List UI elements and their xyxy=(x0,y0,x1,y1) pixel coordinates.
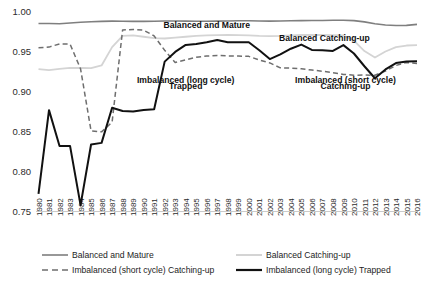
x-axis-tick-label: 1994 xyxy=(182,198,191,216)
y-axis-tick-label: 0.80 xyxy=(13,166,32,177)
x-axis-tick-label: 1995 xyxy=(192,198,201,216)
x-axis-tick-label: 1999 xyxy=(234,198,243,216)
x-axis-tick-label: 2014 xyxy=(392,198,401,216)
x-axis-tick-label: 1982 xyxy=(56,198,65,216)
series-line-3 xyxy=(39,40,418,205)
x-axis-tick-label: 1988 xyxy=(119,198,128,216)
x-axis-tick-label: 1992 xyxy=(161,198,170,216)
legend-label: Imbalanced (short cycle) Catching-up xyxy=(72,265,215,275)
chart-annotation: Trapped xyxy=(169,81,202,91)
series-group xyxy=(39,20,418,205)
x-axis-tick-label: 1998 xyxy=(224,198,233,216)
x-axis-tick-label: 1981 xyxy=(45,198,54,216)
x-axis-tick-label: 2004 xyxy=(287,198,296,216)
x-axis-tick-label: 1990 xyxy=(140,198,149,216)
x-axis-tick-label: 2013 xyxy=(382,198,391,216)
line-chart: 1.000.950.900.850.800.75 198019811982198… xyxy=(0,0,423,286)
x-axis-tick-label: 2002 xyxy=(266,198,275,216)
x-axis-tick-labels: 1980198119821983198419851986198719881989… xyxy=(35,198,423,216)
x-axis-tick-label: 2000 xyxy=(245,198,254,216)
y-axis-tick-label: 1.00 xyxy=(13,6,32,17)
x-axis-tick-label: 1993 xyxy=(171,198,180,216)
chart-legend: Balanced and MatureBalanced Catching-upI… xyxy=(42,250,391,275)
y-axis-tick-label: 0.90 xyxy=(13,86,32,97)
y-axis-tick-label: 0.95 xyxy=(13,46,32,57)
x-axis-tick-label: 1989 xyxy=(129,198,138,216)
chart-svg: 1.000.950.900.850.800.75 198019811982198… xyxy=(0,0,423,286)
legend-label: Balanced and Mature xyxy=(72,250,154,260)
x-axis-tick-label: 1983 xyxy=(66,198,75,216)
x-axis-tick-label: 1980 xyxy=(35,198,44,216)
x-axis-tick-label: 1997 xyxy=(213,198,222,216)
x-axis-tick-label: 2003 xyxy=(276,198,285,216)
x-axis-tick-label: 1985 xyxy=(87,198,96,216)
chart-annotation: Balanced and Mature xyxy=(164,20,251,30)
x-axis-tick-label: 2009 xyxy=(340,198,349,216)
y-axis-tick-label: 0.75 xyxy=(13,206,32,217)
legend-label: Balanced Catching-up xyxy=(266,250,351,260)
y-axis-tick-labels: 1.000.950.900.850.800.75 xyxy=(13,6,32,217)
y-axis-tick-label: 0.85 xyxy=(13,126,32,137)
x-axis-tick-label: 1996 xyxy=(203,198,212,216)
x-axis-tick-label: 2010 xyxy=(350,198,359,216)
x-axis-tick-label: 2007 xyxy=(318,198,327,216)
x-axis-tick-label: 2001 xyxy=(255,198,264,216)
x-axis-tick-label: 2005 xyxy=(297,198,306,216)
x-axis-tick-label: 2015 xyxy=(403,198,412,216)
legend-label: Imbalanced (long cycle) Trapped xyxy=(266,265,391,275)
x-axis-tick-label: 2012 xyxy=(371,198,380,216)
x-axis-tick-label: 1991 xyxy=(150,198,159,216)
x-axis-tick-label: 2006 xyxy=(308,198,317,216)
x-axis-tick-label: 2011 xyxy=(361,198,370,216)
chart-annotation: Balanced Catching-up xyxy=(279,33,370,43)
x-axis-tick-label: 1987 xyxy=(108,198,117,216)
chart-annotation: Catching-up xyxy=(320,81,370,91)
x-axis-tick-label: 2016 xyxy=(413,198,422,216)
x-axis-tick-label: 1986 xyxy=(98,198,107,216)
x-axis-tick-label: 2008 xyxy=(329,198,338,216)
